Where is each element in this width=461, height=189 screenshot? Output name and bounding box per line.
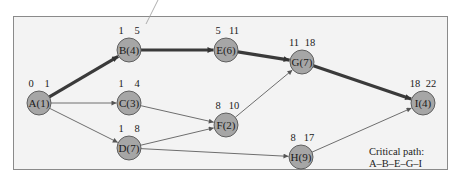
edge-a-b (49, 56, 118, 97)
node-g: G(7)1118 (289, 37, 315, 74)
edge-d-h (141, 149, 289, 157)
node-label: E(6) (216, 44, 236, 57)
node-label: D(7) (119, 142, 140, 155)
critical-path-note: Critical path: A–B–E–G–I (369, 146, 424, 170)
early-finish: 22 (426, 78, 437, 89)
node-d: D(7)18 (117, 123, 141, 160)
node-c: C(3)14 (117, 78, 141, 115)
early-finish: 5 (134, 25, 139, 36)
early-finish: 17 (304, 132, 315, 143)
early-start: 1 (118, 78, 123, 89)
edge-a-d (50, 108, 118, 142)
node-i: I(4)1822 (410, 78, 437, 115)
edge-f-g (235, 70, 292, 117)
early-start: 1 (118, 123, 123, 134)
early-start: 5 (215, 25, 220, 36)
node-label: G(7) (292, 56, 313, 69)
node-h: H(9)817 (289, 132, 314, 169)
edge-g-i (313, 66, 411, 99)
node-label: F(2) (217, 119, 236, 132)
early-finish: 18 (305, 37, 316, 48)
node-e: E(6)511 (214, 25, 239, 62)
critical-path-title: Critical path: (369, 146, 424, 158)
early-finish: 1 (44, 78, 49, 89)
node-label: H(9) (291, 151, 312, 164)
early-finish: 10 (229, 100, 240, 111)
edge-c-f (141, 106, 214, 123)
early-start: 1 (118, 25, 123, 36)
early-finish: 8 (134, 123, 139, 134)
early-finish: 4 (134, 78, 140, 89)
critical-path-sequence: A–B–E–G–I (369, 158, 424, 170)
node-a: A(1)01 (27, 78, 51, 115)
early-start: 8 (290, 132, 295, 143)
node-label: I(4) (415, 97, 432, 110)
early-start: 11 (289, 37, 299, 48)
node-b: B(4)15 (117, 25, 141, 62)
node-label: B(4) (119, 44, 140, 57)
node-label: C(3) (119, 97, 140, 110)
node-f: F(2)810 (214, 100, 239, 137)
node-label: A(1) (29, 97, 50, 110)
edge-d-f (141, 128, 214, 145)
edge-e-g (238, 52, 290, 60)
early-finish: 11 (229, 25, 239, 36)
early-start: 0 (28, 78, 33, 89)
early-start: 18 (410, 78, 421, 89)
early-start: 8 (215, 100, 220, 111)
